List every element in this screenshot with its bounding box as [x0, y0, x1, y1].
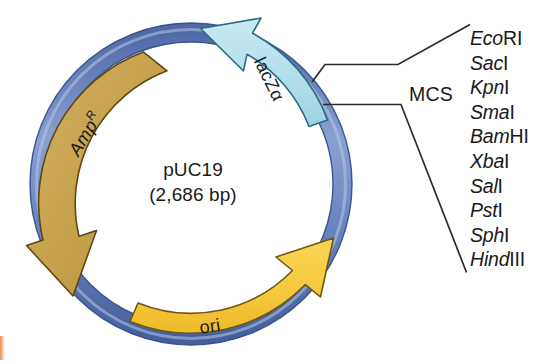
enzyme-item: SacI	[470, 51, 559, 76]
enzyme-numeral: I	[498, 199, 503, 221]
enzyme-item: HindIII	[470, 247, 559, 272]
ori-label: ori	[198, 315, 222, 339]
enzyme-item: XbaI	[470, 149, 559, 174]
enzyme-item: KpnI	[470, 75, 559, 100]
enzyme-numeral: RI	[503, 27, 522, 49]
enzyme-numeral: III	[509, 248, 525, 270]
enzyme-numeral: HI	[510, 125, 529, 147]
plasmid-name: pUC19	[118, 157, 268, 182]
enzyme-name: Kpn	[470, 76, 504, 98]
enzyme-numeral: I	[504, 224, 509, 246]
enzyme-numeral: I	[503, 52, 508, 74]
feature-ori	[130, 238, 334, 333]
enzyme-numeral: I	[498, 175, 503, 197]
enzyme-name: Sac	[470, 52, 503, 74]
plasmid-map-figure: AmpR ori lacZα pUC19 (2,686 bp) MCS EcoR…	[0, 0, 559, 364]
enzyme-name: Xba	[470, 150, 504, 172]
enzyme-name: Eco	[470, 27, 503, 49]
enzyme-item: SalI	[470, 174, 559, 199]
enzyme-item: SphI	[470, 223, 559, 248]
scan-edge-artifact	[0, 336, 5, 360]
enzyme-name: Pst	[470, 199, 498, 221]
plasmid-size: (2,686 bp)	[118, 182, 268, 207]
enzyme-numeral: I	[504, 76, 509, 98]
enzyme-numeral: I	[504, 150, 509, 172]
enzyme-item: EcoRI	[470, 26, 559, 51]
enzyme-name: Bam	[470, 125, 510, 147]
enzyme-item: PstI	[470, 198, 559, 223]
ori-label-text: ori	[198, 315, 222, 338]
enzyme-name: Sal	[470, 175, 498, 197]
enzyme-item: SmaI	[470, 100, 559, 125]
enzyme-item: BamHI	[470, 124, 559, 149]
enzyme-name: Hind	[470, 248, 509, 270]
restriction-enzyme-list: EcoRI SacI KpnI SmaI BamHI XbaI SalI Pst…	[470, 26, 559, 272]
enzyme-name: Sph	[470, 224, 504, 246]
plasmid-center-label: pUC19 (2,686 bp)	[118, 157, 268, 207]
enzyme-name: Sma	[470, 101, 510, 123]
mcs-leader-top	[312, 25, 470, 83]
enzyme-numeral: I	[510, 101, 515, 123]
mcs-label: MCS	[409, 83, 453, 105]
